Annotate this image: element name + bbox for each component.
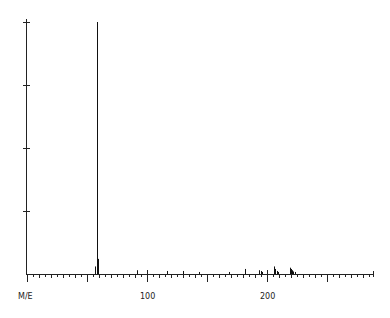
x-tick-label-200: 200: [260, 292, 275, 301]
spectrum-peaks: [96, 22, 296, 274]
x-tick-label-100: 100: [140, 292, 155, 301]
axes: [23, 19, 374, 282]
mass-spectrum-chart: [0, 0, 390, 318]
x-axis-label: M/E: [18, 292, 33, 301]
